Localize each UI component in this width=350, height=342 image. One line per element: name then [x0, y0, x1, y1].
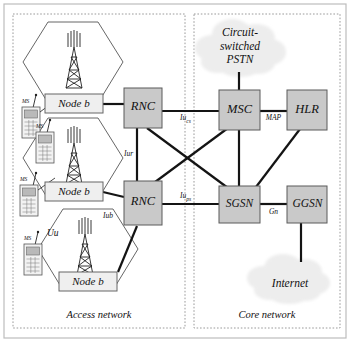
box-msc: [219, 90, 260, 130]
cloud-internet: [247, 254, 330, 304]
box-rnc1: [124, 88, 162, 128]
tower-icon-1: [66, 30, 82, 88]
cloud-pstn: [195, 19, 286, 77]
link-hlr-sgsn: [256, 129, 300, 187]
diagram-canvas: [0, 0, 350, 342]
tower-icon-3: [77, 217, 93, 275]
box-nodeb1: [45, 94, 103, 113]
box-nodeb2: [45, 182, 103, 201]
tower-icon-2: [66, 126, 82, 184]
box-rnc2: [124, 181, 162, 225]
box-ggsn: [287, 186, 327, 223]
network-element-boxes: [124, 88, 327, 225]
link-nodeb2-rnc2: [103, 192, 124, 197]
network-architecture-diagram: RNC RNC MSC HLR SGSN GGSN Node b Node b …: [0, 0, 350, 342]
box-hlr: [287, 90, 327, 130]
ms-icon-4: [24, 231, 42, 275]
box-sgsn: [219, 186, 260, 223]
cell-hexagon-1: [23, 22, 123, 103]
box-nodeb3: [59, 272, 117, 291]
